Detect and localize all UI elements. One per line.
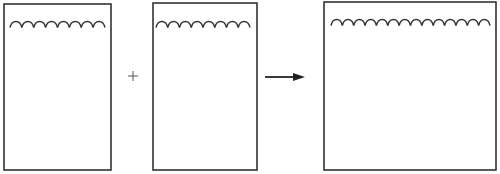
liquid-surface-wave [156,21,250,27]
diagram-canvas [0,0,500,174]
container-a [4,4,111,170]
container-outline [153,3,257,170]
container-outline [324,2,496,170]
liquid-surface-wave [331,19,490,25]
liquid-surface-wave [10,21,105,27]
container-result [324,2,496,170]
container-outline [4,4,111,170]
plus-sign [128,71,138,81]
arrow-right-icon [265,73,305,81]
container-b [153,3,257,170]
